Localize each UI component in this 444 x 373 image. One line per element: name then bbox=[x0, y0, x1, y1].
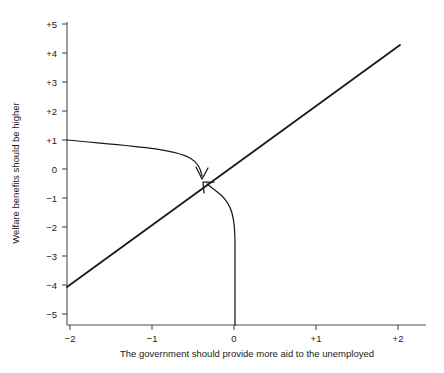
x-axis-tick-labels: −2 −1 0 +1 +2 bbox=[65, 333, 404, 344]
y-tick-label-zero: 0 bbox=[52, 164, 57, 175]
y-tick-label-minus2: −2 bbox=[46, 222, 57, 233]
x-tick-label-zero: 0 bbox=[231, 333, 236, 344]
y-axis-title: Welfare benefits should be higher bbox=[10, 102, 21, 243]
chart-figure: +5 +4 +3 +2 +1 0 −1 −2 −3 −4 −5 −2 −1 0 … bbox=[0, 0, 444, 373]
x-tick-label-plus1: +1 bbox=[311, 333, 322, 344]
x-tick-label-minus1: −1 bbox=[147, 333, 158, 344]
annotation-arrow-1-curve bbox=[67, 140, 202, 176]
x-tick-label-minus2: −2 bbox=[65, 333, 76, 344]
y-tick-label-minus5: −5 bbox=[46, 309, 57, 320]
annotation-arrow-from-y-axis bbox=[67, 140, 208, 179]
y-axis-tick-labels: +5 +4 +3 +2 +1 0 −1 −2 −3 −4 −5 bbox=[46, 19, 57, 320]
regression-line bbox=[67, 45, 400, 287]
y-tick-label-plus3: +3 bbox=[46, 77, 57, 88]
y-tick-label-plus4: +4 bbox=[46, 48, 57, 59]
y-tick-label-minus3: −3 bbox=[46, 251, 57, 262]
y-tick-label-plus5: +5 bbox=[46, 19, 57, 30]
x-axis-ticks bbox=[70, 325, 398, 330]
y-tick-label-minus4: −4 bbox=[46, 280, 57, 291]
y-tick-label-plus1: +1 bbox=[46, 135, 57, 146]
annotation-arrow-2-curve bbox=[207, 184, 235, 325]
x-axis-title: The government should provide more aid t… bbox=[120, 348, 374, 359]
x-tick-label-plus2: +2 bbox=[393, 333, 404, 344]
y-tick-label-plus2: +2 bbox=[46, 106, 57, 117]
scatter-plot-canvas: +5 +4 +3 +2 +1 0 −1 −2 −3 −4 −5 −2 −1 0 … bbox=[0, 0, 444, 373]
y-axis-ticks bbox=[62, 24, 67, 314]
annotation-arrow-from-x-axis bbox=[203, 182, 235, 325]
y-tick-label-minus1: −1 bbox=[46, 193, 57, 204]
